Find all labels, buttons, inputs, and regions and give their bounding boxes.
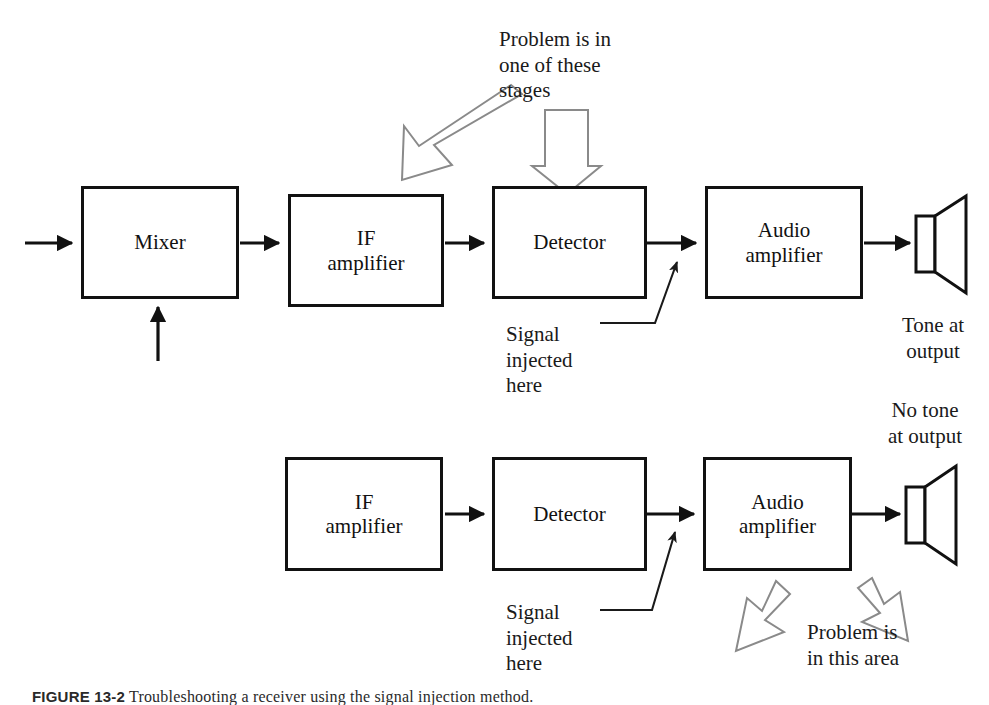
- annotation-signal-injected-row2: Signal injected here: [506, 600, 572, 677]
- figure-caption-text: Troubleshooting a receiver using the sig…: [129, 688, 533, 705]
- block-if-amplifier-label: IF amplifier: [328, 226, 405, 274]
- block-if-amplifier-2[interactable]: IF amplifier: [285, 457, 443, 571]
- annotation-problem-in-this-area: Problem is in this area: [807, 620, 899, 671]
- speaker-icon-row1: [916, 196, 966, 293]
- figure-number: FIGURE 13-2: [32, 688, 125, 705]
- annotation-signal-injected-row1: Signal injected here: [506, 322, 572, 399]
- block-mixer-label: Mixer: [134, 230, 185, 254]
- block-audio-amplifier[interactable]: Audio amplifier: [705, 186, 863, 299]
- block-detector[interactable]: Detector: [492, 186, 647, 299]
- block-detector-label: Detector: [533, 230, 605, 254]
- figure-container: Mixer IF amplifier Detector Audio amplif…: [0, 0, 989, 705]
- block-audio-amplifier-label: Audio amplifier: [746, 218, 823, 266]
- block-mixer[interactable]: Mixer: [81, 186, 239, 299]
- annotation-no-tone-at-output: No tone at output: [866, 398, 984, 449]
- block-if-amplifier[interactable]: IF amplifier: [288, 194, 444, 307]
- block-detector-2[interactable]: Detector: [492, 457, 647, 571]
- hollow-arrow-vertical: [532, 110, 601, 194]
- block-audio-amplifier-2[interactable]: Audio amplifier: [703, 457, 852, 571]
- figure-caption: FIGURE 13-2 Troubleshooting a receiver u…: [32, 688, 533, 705]
- hollow-arrow-up-left: [736, 581, 790, 651]
- block-detector-2-label: Detector: [533, 502, 605, 526]
- annotation-tone-at-output: Tone at output: [881, 313, 985, 364]
- annotation-problem-stages: Problem is in one of these stages: [499, 27, 611, 104]
- block-audio-amplifier-2-label: Audio amplifier: [739, 490, 816, 538]
- diagram-canvas: [0, 0, 989, 705]
- speaker-icon-row2: [906, 466, 956, 564]
- block-if-amplifier-2-label: IF amplifier: [326, 490, 403, 538]
